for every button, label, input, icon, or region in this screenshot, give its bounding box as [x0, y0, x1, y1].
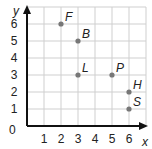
y-tick-label: 6 [11, 17, 18, 31]
y-axis-arrow-icon [23, 5, 31, 14]
x-tick-label: 4 [92, 132, 99, 146]
y-axis-label: y [12, 4, 20, 18]
origin-label: 0 [9, 123, 16, 137]
y-tick-label: 2 [11, 85, 18, 99]
x-tick-label: 1 [41, 132, 48, 146]
y-tick-label: 1 [11, 102, 18, 116]
point-label: B [82, 27, 90, 41]
x-tick-labels: 123456 [41, 132, 133, 146]
y-tick-labels: 123456 [11, 17, 18, 116]
point-marker-icon [58, 21, 63, 26]
y-tick-label: 4 [11, 51, 18, 65]
point-label: L [82, 61, 89, 75]
x-tick-label: 5 [109, 132, 116, 146]
point-label: P [116, 61, 124, 75]
x-tick-label: 2 [58, 132, 65, 146]
point-marker-icon [126, 89, 131, 94]
point-marker-icon [75, 38, 80, 43]
point-marker-icon [75, 72, 80, 77]
point-label: S [133, 95, 141, 109]
y-tick-label: 3 [11, 68, 18, 82]
coordinate-plane-chart: 123456 123456 0 x y FBLPHS [0, 0, 152, 149]
y-tick-label: 5 [11, 34, 18, 48]
point-label: F [65, 10, 73, 24]
x-tick-label: 3 [75, 132, 82, 146]
x-axis-label: x [141, 135, 149, 149]
point-label: H [133, 78, 142, 92]
x-axis-arrow-icon [139, 122, 148, 130]
point-marker-icon [109, 72, 114, 77]
point-marker-icon [126, 106, 131, 111]
x-tick-label: 6 [126, 132, 133, 146]
